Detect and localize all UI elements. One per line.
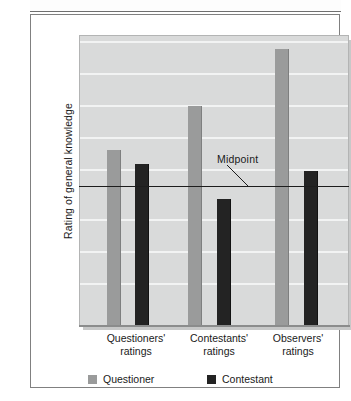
x-axis-label-line2: ratings <box>88 345 184 358</box>
x-axis-label-line1: Questioners' <box>88 332 184 345</box>
bar-contestant-group1 <box>217 199 231 326</box>
gridline-2 <box>80 105 348 107</box>
x-axis-label-line2: ratings <box>250 345 346 358</box>
chart-legend: QuestionerContestant <box>79 373 349 391</box>
legend-item-questioner: Questioner <box>88 373 154 385</box>
gridline-1 <box>80 73 348 75</box>
bar-questioner-group1 <box>188 106 202 326</box>
figure-frame: Rating of general knowledge Midpoint Que… <box>30 14 340 388</box>
contestant-swatch <box>207 375 216 384</box>
gridline-3 <box>80 137 348 139</box>
midpoint-reference-line <box>79 186 349 187</box>
plot-area <box>79 35 349 326</box>
legend-item-contestant: Contestant <box>207 373 273 385</box>
x-axis-baseline <box>79 325 350 327</box>
x-axis-label-2: Observers'ratings <box>250 332 346 358</box>
x-axis-labels: Questioners'ratingsContestants'ratingsOb… <box>79 332 349 368</box>
top-rule <box>30 0 341 12</box>
legend-label: Contestant <box>222 373 273 385</box>
midpoint-annotation-label: Midpoint <box>217 153 258 165</box>
bar-contestant-group0 <box>135 164 149 326</box>
questioner-swatch <box>88 375 97 384</box>
midpoint-leader-line <box>227 165 249 187</box>
bar-contestant-group2 <box>304 171 318 326</box>
legend-label: Questioner <box>103 373 154 385</box>
gridline-0 <box>80 41 348 43</box>
x-axis-label-line1: Observers' <box>250 332 346 345</box>
x-axis-label-0: Questioners'ratings <box>88 332 184 358</box>
bar-questioner-group2 <box>275 49 289 326</box>
y-axis-title: Rating of general knowledge <box>62 71 74 271</box>
bar-questioner-group0 <box>107 150 121 326</box>
